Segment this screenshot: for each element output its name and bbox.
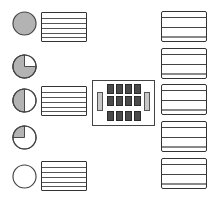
grid-cell <box>116 84 123 94</box>
grid-cell <box>134 111 141 121</box>
right-table-1 <box>161 11 207 42</box>
left-table-3 <box>41 161 87 191</box>
fill-indicator-quarter-icon <box>12 125 37 150</box>
left-side-bar <box>97 92 103 111</box>
right-table-4 <box>161 121 207 152</box>
right-side-bar <box>144 92 150 111</box>
right-table-2 <box>161 48 207 79</box>
grid-cell <box>134 96 141 106</box>
fill-indicator-full-icon <box>12 11 37 36</box>
right-table-5 <box>161 158 207 189</box>
right-table-3 <box>161 84 207 115</box>
grid-cell <box>107 96 114 106</box>
grid-cell <box>134 84 141 94</box>
grid-cell <box>116 96 123 106</box>
fill-indicator-three-quarter-icon <box>12 54 37 79</box>
grid-cell <box>125 96 132 106</box>
grid-cell <box>107 111 114 121</box>
fill-indicator-empty-icon <box>12 164 37 189</box>
fill-indicator-half-icon <box>12 88 37 113</box>
grid-cell <box>107 84 114 94</box>
left-table-1 <box>41 12 87 42</box>
center-grid-unit <box>92 80 155 126</box>
grid-cell <box>125 84 132 94</box>
grid-cell <box>116 111 123 121</box>
grid-cell <box>125 111 132 121</box>
left-table-2 <box>41 86 87 116</box>
